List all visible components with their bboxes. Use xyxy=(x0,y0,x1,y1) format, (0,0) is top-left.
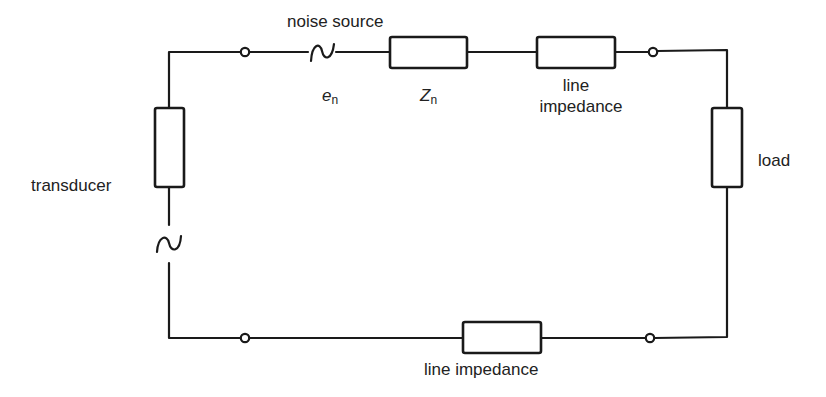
en-label: en xyxy=(322,86,338,107)
terminal-top-right xyxy=(649,48,657,56)
bottom-line-impedance-label: line impedance xyxy=(424,360,538,379)
noise-source-ac-icon xyxy=(311,44,334,61)
transducer-ac-source-icon xyxy=(157,236,181,252)
terminals xyxy=(241,48,657,342)
top-line-impedance xyxy=(537,37,615,68)
wire-bottom-right xyxy=(654,187,727,338)
wire-top-left xyxy=(169,52,241,108)
zn-label: Zn xyxy=(419,86,437,107)
terminal-bottom-right xyxy=(646,334,654,342)
circuit-diagram: noise source en Zn line impedance load t… xyxy=(0,0,826,397)
wires xyxy=(169,50,727,338)
wire-top-right xyxy=(657,50,727,108)
components xyxy=(155,37,742,353)
load-impedance xyxy=(712,108,742,187)
top-line-impedance-label-line1: line xyxy=(563,76,589,95)
terminal-top-left xyxy=(241,48,249,56)
load-label: load xyxy=(758,151,790,170)
wire-bottom-left xyxy=(169,263,241,338)
transducer-impedance xyxy=(155,108,184,187)
transducer-label: transducer xyxy=(31,176,112,195)
noise-impedance-zn xyxy=(390,37,467,68)
terminal-bottom-left xyxy=(241,334,249,342)
noise-source-label: noise source xyxy=(287,12,383,31)
top-line-impedance-label-line2: impedance xyxy=(539,97,622,116)
bottom-line-impedance xyxy=(463,322,541,353)
